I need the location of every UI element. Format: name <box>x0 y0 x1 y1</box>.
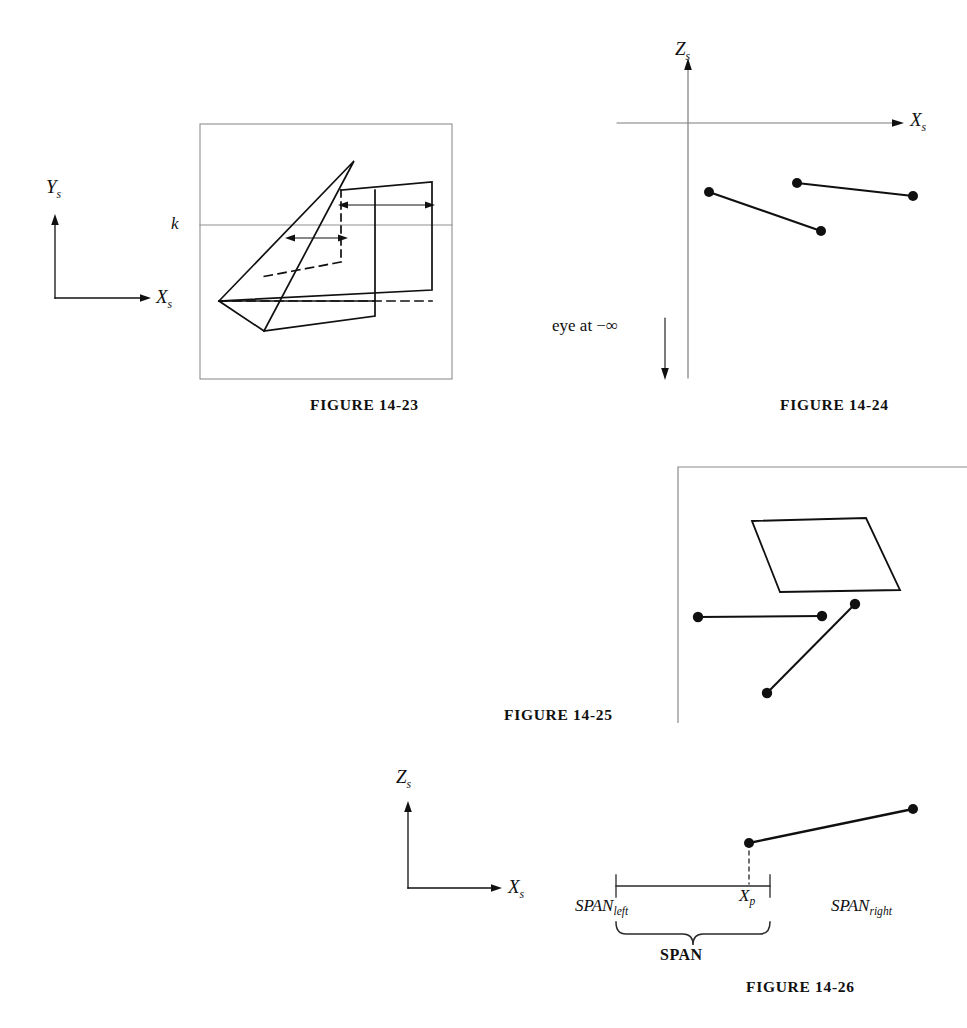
span-segment <box>744 804 918 848</box>
horizontal-segment <box>693 611 827 622</box>
segment-endpoint-dot <box>704 187 714 197</box>
sample-point-label: Xp <box>739 886 755 908</box>
triangle-polygon <box>219 161 354 331</box>
span-arrow-short <box>285 234 348 241</box>
hidden-slope-line <box>261 262 341 277</box>
axis-label-zs: Zs <box>396 766 411 792</box>
axis-label-xs: Xs <box>508 876 524 902</box>
lower-quad-edge <box>264 190 375 331</box>
figure-14-23-drawing <box>0 0 500 430</box>
axis-label-xs: Xs <box>156 286 172 312</box>
frame-corner <box>678 467 967 723</box>
segment-endpoint-dot <box>744 838 754 848</box>
segment-endpoint-dot <box>762 688 772 698</box>
figure-caption-14-26: FIGURE 14-26 <box>746 978 855 996</box>
span-brace <box>616 922 770 945</box>
axis-marker-14-26 <box>404 801 502 892</box>
segment-endpoint-dot <box>792 178 802 188</box>
segment-endpoint-dot <box>693 612 703 622</box>
scanline-label-k: k <box>171 214 179 234</box>
eye-position-label: eye at −∞ <box>552 316 618 336</box>
diagonal-segment <box>762 599 860 698</box>
figure-14-26-drawing <box>370 760 950 960</box>
segment-endpoint-dot <box>816 226 826 236</box>
depth-segment-2 <box>792 178 918 201</box>
figure-14-25-drawing <box>660 455 967 735</box>
segment-endpoint-dot <box>908 804 918 814</box>
segment-endpoint-dot <box>817 611 827 621</box>
parallelogram <box>752 518 900 592</box>
axis-label-xs: Xs <box>910 109 926 135</box>
figure-caption-14-24: FIGURE 14-24 <box>780 396 889 414</box>
figure-14-24-drawing <box>520 20 967 400</box>
axis-label-zs: Zs <box>675 38 690 64</box>
x-axis-arrowhead <box>491 884 502 892</box>
eye-arrowhead <box>661 368 669 380</box>
segment-endpoint-dot <box>908 191 918 201</box>
span-total-label: SPAN <box>660 946 703 964</box>
z-axis-arrowhead <box>404 801 412 812</box>
figure-14-24: Zs Xs eye at −∞ <box>520 20 967 400</box>
eye-direction-arrow <box>661 318 669 380</box>
axis-marker-14-23 <box>51 214 151 302</box>
figure-14-25 <box>660 455 967 735</box>
span-right-label: SPANright <box>831 896 892 918</box>
x-axis-arrowhead <box>892 119 904 127</box>
span-arrow-long <box>338 201 435 208</box>
upper-quad <box>219 182 432 301</box>
clipping-frame <box>200 124 452 379</box>
span-left-label: SPANleft <box>575 896 628 918</box>
axis-label-ys: Ys <box>46 176 61 202</box>
figure-14-23: Ys Xs k <box>0 0 500 430</box>
figure-14-26: Zs Xs SPANleft Xp SPANright SPAN <box>370 760 950 960</box>
x-axis-arrowhead <box>140 294 151 302</box>
segment-endpoint-dot <box>850 599 860 609</box>
y-axis-arrowhead <box>51 214 59 225</box>
figure-page: Ys Xs k FIGURE 14-23 <box>0 0 967 1028</box>
depth-segment-1 <box>704 187 826 236</box>
figure-caption-14-23: FIGURE 14-23 <box>310 396 419 414</box>
figure-caption-14-25: FIGURE 14-25 <box>504 706 613 724</box>
